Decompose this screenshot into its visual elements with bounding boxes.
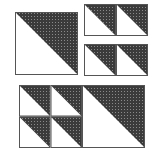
hst-unit-bottom-small-r1-c1 xyxy=(19,85,51,117)
hst-unit-bottom-large xyxy=(82,85,145,148)
hst-unit-small-r1-c1 xyxy=(84,4,116,36)
hst-unit-bottom-small-r2-c1 xyxy=(19,117,51,149)
hst-unit-small-r2-c1 xyxy=(84,44,116,76)
hst-unit-small-r1-c2 xyxy=(116,4,148,36)
hst-unit-large-top-left xyxy=(15,12,78,75)
hst-unit-bottom-small-r1-c2 xyxy=(51,85,83,117)
hst-unit-small-r2-c2 xyxy=(116,44,148,76)
hst-unit-bottom-small-r2-c2 xyxy=(51,117,83,149)
half-square-triangle-diagram xyxy=(0,0,157,152)
